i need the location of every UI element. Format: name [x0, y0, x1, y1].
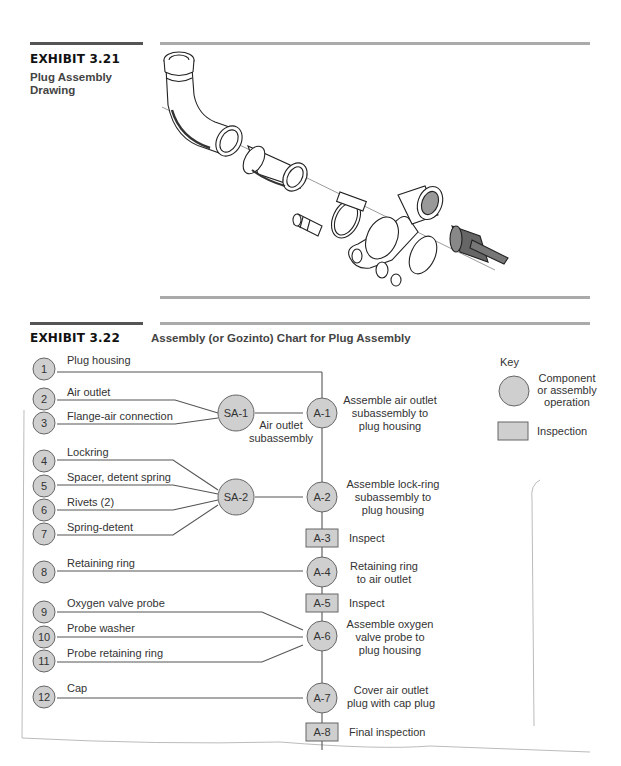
- key-circle-line1: Component: [539, 372, 596, 384]
- key-square-icon: [498, 422, 528, 440]
- component-7-label: Spring-detent: [67, 521, 133, 533]
- component-3-label: Flange-air connection: [67, 410, 173, 422]
- a-6-desc-line1: Assemble oxygen: [347, 618, 434, 630]
- a-2-desc-line2: subassembly to: [355, 491, 431, 503]
- a-5-id: A-5: [313, 597, 330, 609]
- a-3-desc: Inspect: [349, 532, 384, 544]
- a-2-desc-line3: plug housing: [362, 504, 424, 516]
- a-6-desc-line2: valve probe to: [355, 631, 424, 643]
- component-5-label: Spacer, detent spring: [67, 471, 171, 483]
- a-7-desc-line2: plug with cap plug: [347, 697, 435, 709]
- component-6-label: Rivets (2): [67, 496, 114, 508]
- component-9-number: 9: [41, 606, 47, 618]
- component-10-label: Probe washer: [67, 622, 135, 634]
- component-8-number: 8: [41, 566, 47, 578]
- key-square-label: Inspection: [537, 425, 587, 437]
- a-1-id: A-1: [313, 407, 330, 419]
- a-3-id: A-3: [313, 532, 330, 544]
- key-circle-line3: operation: [544, 396, 590, 408]
- a-7-id: A-7: [313, 692, 330, 704]
- sa-1-caption-line1: Air outlet: [259, 419, 302, 431]
- a-1-desc-line3: plug housing: [359, 420, 421, 432]
- component-9-label: Oxygen valve probe: [67, 597, 165, 609]
- a-2-id: A-2: [313, 491, 330, 503]
- gozinto-chart: 1 2 3 4 5 6 7 8 9 10 11 12 Plug housing …: [0, 0, 621, 766]
- key-circle-icon: [499, 376, 529, 406]
- a-6-desc-line3: plug housing: [359, 644, 421, 656]
- sa-1-id: SA-1: [224, 407, 248, 419]
- component-1-label: Plug housing: [67, 354, 131, 366]
- component-2-label: Air outlet: [67, 386, 110, 398]
- component-2-number: 2: [41, 393, 47, 405]
- a-6-id: A-6: [313, 630, 330, 642]
- key-circle-line2: or assembly: [537, 384, 597, 396]
- component-11-number: 11: [38, 655, 49, 667]
- a-1-desc-line2: subassembly to: [352, 407, 428, 419]
- component-3-number: 3: [41, 417, 47, 429]
- component-4-number: 4: [41, 455, 47, 467]
- sa-2-id: SA-2: [224, 491, 248, 503]
- component-5-number: 5: [41, 480, 47, 492]
- component-12-label: Cap: [67, 682, 87, 694]
- component-8-label: Retaining ring: [67, 557, 135, 569]
- a-4-desc-line2: to air outlet: [357, 573, 411, 585]
- a-4-desc-line1: Retaining ring: [350, 560, 418, 572]
- component-11-label: Probe retaining ring: [67, 647, 163, 659]
- component-4-label: Lockring: [67, 446, 109, 458]
- sa-1-caption-line2: subassembly: [249, 432, 314, 444]
- a-8-desc: Final inspection: [349, 726, 425, 738]
- component-10-number: 10: [38, 631, 50, 643]
- component-12-number: 12: [38, 691, 50, 703]
- a-1-desc-line1: Assemble air outlet: [343, 394, 437, 406]
- a-8-id: A-8: [313, 726, 330, 738]
- a-7-desc-line1: Cover air outlet: [354, 684, 429, 696]
- a-5-desc: Inspect: [349, 597, 384, 609]
- a-4-id: A-4: [313, 566, 330, 578]
- key-title: Key: [500, 356, 519, 368]
- component-7-number: 7: [41, 528, 47, 540]
- component-1-number: 1: [41, 363, 47, 375]
- component-6-number: 6: [41, 504, 47, 516]
- a-2-desc-line1: Assemble lock-ring: [347, 478, 440, 490]
